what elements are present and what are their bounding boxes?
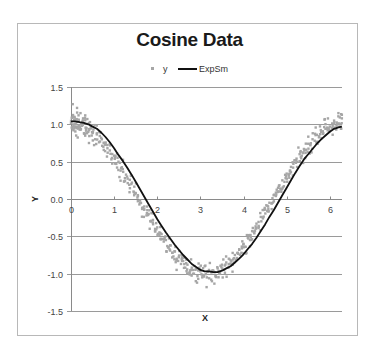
- scatter-point: [174, 250, 176, 252]
- scatter-point: [265, 204, 267, 206]
- scatter-point: [252, 227, 254, 229]
- scatter-point: [186, 272, 188, 274]
- scatter-point: [257, 221, 259, 223]
- scatter-point: [225, 255, 227, 257]
- scatter-point: [85, 129, 87, 131]
- scatter-point: [84, 117, 86, 119]
- scatter-point: [295, 157, 297, 159]
- scatter-point: [86, 118, 88, 120]
- scatter-point: [286, 177, 288, 179]
- scatter-point: [241, 240, 243, 242]
- scatter-point: [278, 190, 280, 192]
- scatter-point: [318, 136, 320, 138]
- scatter-point: [104, 150, 106, 152]
- scatter-point: [270, 208, 272, 210]
- scatter-point: [117, 169, 119, 171]
- scatter-point: [88, 142, 90, 144]
- scatter-point: [273, 200, 275, 202]
- scatter-point: [307, 147, 309, 149]
- scatter-point: [84, 132, 86, 134]
- scatter-point: [76, 111, 78, 113]
- scatter-point: [155, 228, 157, 230]
- scatter-point: [169, 244, 171, 246]
- scatter-point: [111, 162, 113, 164]
- scatter-point: [292, 166, 294, 168]
- scatter-point: [73, 116, 75, 118]
- y-axis-title: Y: [30, 196, 40, 202]
- scatter-point: [118, 176, 120, 178]
- y-tick-label: -0.5: [47, 232, 63, 242]
- scatter-point: [84, 134, 86, 136]
- scatter-point: [168, 248, 170, 250]
- scatter-point: [76, 107, 78, 109]
- scatter-point: [134, 192, 136, 194]
- x-tick-label: 1: [112, 205, 117, 215]
- scatter-point: [192, 273, 194, 275]
- scatter-point: [225, 261, 227, 263]
- scatter-point: [106, 144, 108, 146]
- scatter-point: [96, 133, 98, 135]
- scatter-point: [204, 264, 206, 266]
- scatter-point: [238, 248, 240, 250]
- scatter-point: [234, 254, 236, 256]
- scatter-point: [231, 270, 233, 272]
- scatter-point: [267, 208, 269, 210]
- scatter-point: [192, 269, 194, 271]
- scatter-point: [322, 130, 324, 132]
- scatter-point: [89, 121, 91, 123]
- scatter-point: [121, 166, 123, 168]
- scatter-point: [280, 191, 282, 193]
- scatter-point: [262, 216, 264, 218]
- scatter-point: [194, 269, 196, 271]
- scatter-point: [322, 133, 324, 135]
- scatter-point: [221, 276, 223, 278]
- scatter-point: [95, 143, 97, 145]
- scatter-point: [139, 199, 141, 201]
- scatter-point: [319, 125, 321, 127]
- x-tick-label: 5: [285, 205, 290, 215]
- scatter-point: [77, 114, 79, 116]
- scatter-point: [180, 263, 182, 265]
- scatter-point: [221, 264, 223, 266]
- scatter-point: [242, 243, 244, 245]
- scatter-point: [131, 181, 133, 183]
- scatter-point: [341, 114, 343, 116]
- scatter-point: [211, 280, 213, 282]
- scatter-point: [138, 203, 140, 205]
- scatter-point: [99, 140, 101, 142]
- scatter-point: [122, 171, 124, 173]
- scatter-point: [331, 134, 333, 136]
- line-series-expsm: [71, 121, 342, 272]
- scatter-point: [92, 128, 94, 130]
- scatter-point: [137, 194, 139, 196]
- scatter-point: [171, 252, 173, 254]
- scatter-point: [166, 245, 168, 247]
- scatter-point: [288, 174, 290, 176]
- scatter-point: [126, 177, 128, 179]
- scatter-point: [71, 117, 73, 119]
- scatter-point: [101, 138, 103, 140]
- scatter-point: [283, 181, 285, 183]
- scatter-point: [72, 103, 74, 105]
- scatter-point: [305, 149, 307, 151]
- scatter-point: [271, 197, 273, 199]
- scatter-point: [285, 172, 287, 174]
- scatter-point: [106, 155, 108, 157]
- scatter-point: [216, 266, 218, 268]
- scatter-point: [200, 273, 202, 275]
- scatter-point: [278, 184, 280, 186]
- scatter-point: [155, 222, 157, 224]
- y-tick-label: 0.0: [50, 195, 63, 205]
- scatter-point: [217, 276, 219, 278]
- scatter-point: [137, 200, 139, 202]
- scatter-point: [163, 240, 165, 242]
- scatter-point: [197, 278, 199, 280]
- scatter-point: [260, 216, 262, 218]
- scatter-point: [178, 254, 180, 256]
- scatter-point: [268, 202, 270, 204]
- scatter-point: [185, 270, 187, 272]
- scatter-point: [299, 150, 301, 152]
- scatter-point: [316, 134, 318, 136]
- scatter-point: [123, 180, 125, 182]
- scatter-point: [119, 169, 121, 171]
